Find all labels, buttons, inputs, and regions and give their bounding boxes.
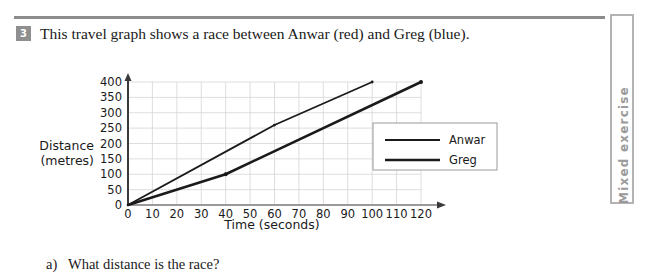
series-point-anwar bbox=[371, 81, 374, 84]
x-axis-title: Time (seconds) bbox=[223, 217, 319, 232]
x-tick-label: 30 bbox=[194, 207, 209, 221]
y-axis-tick-labels: 050100150200250300350400 bbox=[100, 75, 122, 212]
x-tick-label: 120 bbox=[410, 207, 432, 221]
legend-label-greg: Greg bbox=[449, 153, 477, 167]
y-tick-label: 400 bbox=[100, 75, 122, 89]
x-axis-arrow-icon bbox=[437, 202, 446, 209]
y-tick-label: 300 bbox=[100, 106, 122, 120]
y-axis-title-line-2: (metres) bbox=[40, 153, 94, 168]
travel-graph: 0102030405060708090100110120 05010015020… bbox=[0, 0, 647, 278]
y-axis-arrow-icon bbox=[125, 73, 132, 81]
y-tick-label: 100 bbox=[100, 167, 122, 181]
x-tick-label: 20 bbox=[170, 207, 185, 221]
x-tick-label: 10 bbox=[145, 207, 160, 221]
x-tick-label: 100 bbox=[361, 207, 383, 221]
series-point-anwar bbox=[273, 124, 276, 127]
y-tick-label: 50 bbox=[107, 183, 122, 197]
series-point-greg bbox=[419, 80, 423, 84]
x-tick-label: 110 bbox=[386, 207, 408, 221]
legend-label-anwar: Anwar bbox=[449, 133, 486, 147]
question-part-a-marker: a) bbox=[46, 256, 57, 273]
y-tick-label: 200 bbox=[100, 137, 122, 151]
y-tick-label: 250 bbox=[100, 121, 122, 135]
y-axis-title-line-1: Distance bbox=[39, 138, 94, 153]
series-point-greg bbox=[224, 172, 228, 176]
chart-legend: AnwarGreg bbox=[373, 123, 497, 170]
y-tick-label: 150 bbox=[100, 152, 122, 166]
y-tick-label: 350 bbox=[100, 90, 122, 104]
question-part-a-text: What distance is the race? bbox=[68, 256, 219, 273]
y-tick-label: 0 bbox=[115, 198, 122, 212]
x-tick-label: 90 bbox=[340, 207, 355, 221]
x-tick-label: 0 bbox=[124, 207, 131, 221]
